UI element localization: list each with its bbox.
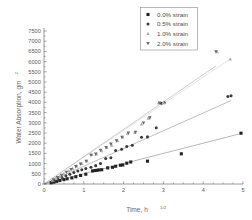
data-point	[97, 168, 100, 171]
y-axis-title-group: Water Absorption, gm-2	[14, 72, 23, 144]
data-point	[155, 126, 158, 129]
data-point	[140, 136, 143, 139]
data-point	[106, 166, 109, 169]
y-tick-label: 0	[38, 181, 41, 187]
x-tick-label: 0	[42, 187, 45, 193]
data-point	[226, 95, 229, 98]
y-tick-label: 4500	[28, 89, 40, 95]
x-tick-label: 5	[241, 187, 244, 193]
data-point	[66, 177, 69, 180]
chart-figure: 0500100015002000250030003500400045005000…	[0, 0, 252, 220]
data-point	[230, 94, 233, 97]
data-point	[68, 173, 71, 176]
legend-marker-circle	[146, 23, 149, 26]
y-axis-title-superscript: -2	[14, 72, 19, 76]
x-tick-label: 2	[122, 187, 125, 193]
data-point	[111, 166, 114, 169]
data-point	[109, 156, 112, 159]
legend-item-label: 0.5% strain	[157, 20, 189, 27]
data-point	[70, 176, 73, 179]
x-tick-label: 3	[162, 187, 165, 193]
data-point	[131, 144, 134, 147]
y-tick-label: 500	[31, 171, 40, 177]
data-point	[79, 174, 82, 177]
data-point	[114, 149, 117, 152]
data-point	[125, 162, 128, 165]
scatter-plot: 0500100015002000250030003500400045005000…	[0, 0, 252, 220]
data-point	[239, 132, 242, 135]
y-tick-label: 1500	[28, 150, 40, 156]
y-tick-label: 7500	[28, 28, 40, 34]
data-point	[80, 168, 83, 171]
data-point	[129, 160, 132, 163]
data-point	[104, 157, 107, 160]
data-point	[146, 135, 149, 138]
data-point	[121, 163, 124, 166]
x-axis-title-superscript: 1/2	[160, 205, 167, 210]
y-tick-label: 3500	[28, 110, 40, 116]
data-point	[84, 167, 87, 170]
data-point	[146, 160, 149, 163]
y-tick-label: 7000	[28, 38, 40, 44]
data-point	[84, 173, 87, 176]
data-point	[74, 175, 77, 178]
legend-item-label: 2.0% strain	[157, 40, 189, 47]
data-point	[99, 162, 102, 165]
legend-item-label: 0.0% strain	[157, 11, 189, 18]
legend-item-label: 1.0% strain	[157, 30, 189, 37]
x-tick-label: 4	[202, 187, 205, 193]
data-point	[180, 152, 183, 155]
y-tick-label: 4000	[28, 99, 40, 105]
data-point	[89, 166, 92, 169]
y-tick-label: 5500	[28, 69, 40, 75]
y-tick-label: 6000	[28, 59, 40, 65]
data-point	[94, 164, 97, 167]
y-tick-label: 6500	[28, 48, 40, 54]
x-tick-label: 1	[82, 187, 85, 193]
data-point	[114, 165, 117, 168]
x-axis-title: Time, h	[126, 206, 148, 213]
y-tick-label: 5000	[28, 79, 40, 85]
legend[interactable]: 0.0% strain0.5% strain1.0% strain2.0% st…	[141, 8, 198, 51]
data-point	[100, 168, 103, 171]
data-point	[72, 171, 75, 174]
legend-marker-square	[146, 13, 149, 16]
y-tick-label: 2500	[28, 130, 40, 136]
y-tick-label: 2000	[28, 140, 40, 146]
y-axis-title: Water Absorption, gm	[15, 80, 23, 144]
data-point	[125, 145, 128, 148]
y-tick-label: 3000	[28, 120, 40, 126]
data-point	[76, 169, 79, 172]
y-tick-label: 1000	[28, 161, 40, 167]
data-point	[120, 148, 123, 151]
